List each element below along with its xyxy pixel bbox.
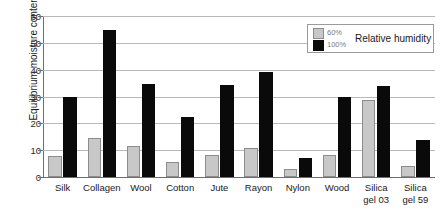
bar [142, 84, 156, 177]
bar [244, 148, 258, 177]
gray-swatch-icon [313, 28, 324, 39]
y-axis-ticks: 0102030405060 [0, 0, 41, 194]
legend-title: Relative humidity [355, 33, 431, 44]
bar [259, 72, 273, 177]
x-tick-label: Silicagel 59 [389, 182, 442, 205]
gridline [43, 177, 435, 178]
gridline [43, 16, 435, 17]
bar [181, 117, 195, 177]
bar [362, 100, 376, 177]
bar [127, 146, 141, 177]
bar [377, 86, 391, 177]
bar [338, 97, 352, 178]
bar [88, 138, 102, 177]
black-swatch-icon [313, 40, 324, 51]
bar [220, 85, 234, 177]
legend: 60% 100% Relative humidity [307, 24, 434, 53]
bar [63, 97, 77, 177]
bar [323, 155, 337, 177]
bar-chart: Equilibrium moisture content 01020304050… [0, 0, 446, 220]
x-axis-labels: SilkCollagenWoolCottonJuteRayonNylonWood… [43, 182, 435, 218]
bar [299, 158, 313, 177]
bar [166, 162, 180, 177]
bar [284, 169, 298, 177]
bar [416, 140, 430, 177]
bar [103, 30, 117, 177]
legend-entry-label-high: 100% [327, 40, 346, 49]
bar [401, 166, 415, 177]
bar [48, 156, 62, 177]
legend-entry-label-low: 60% [327, 28, 342, 37]
bar [205, 155, 219, 177]
